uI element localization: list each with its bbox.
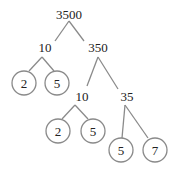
composite-node: 3500 xyxy=(56,7,82,22)
tree-edge xyxy=(55,21,69,41)
node-label: 35 xyxy=(121,89,134,104)
node-label: 10 xyxy=(76,89,89,104)
prime-factor-node: 2 xyxy=(46,119,70,143)
node-label: 5 xyxy=(90,124,97,139)
prime-factor-node: 2 xyxy=(12,71,36,95)
tree-edge xyxy=(125,105,148,138)
composite-node: 35 xyxy=(121,89,134,104)
tree-edge xyxy=(62,105,75,119)
tree-edge xyxy=(75,105,88,119)
tree-edge xyxy=(69,21,84,41)
node-label: 7 xyxy=(152,143,159,158)
node-label: 2 xyxy=(55,124,62,139)
node-label: 350 xyxy=(88,40,108,55)
tree-edge xyxy=(122,105,125,138)
node-label: 5 xyxy=(118,143,125,158)
prime-factor-node: 5 xyxy=(81,119,105,143)
factor-tree-diagram: 3500103502510352557 xyxy=(0,0,172,173)
composite-node: 350 xyxy=(88,40,108,55)
tree-edge xyxy=(98,57,118,89)
prime-factor-node: 5 xyxy=(45,71,69,95)
composite-node: 10 xyxy=(39,40,52,55)
prime-factor-node: 7 xyxy=(143,138,167,162)
prime-factor-node: 5 xyxy=(109,138,133,162)
tree-edge xyxy=(29,57,42,71)
tree-edge xyxy=(87,57,98,86)
tree-nodes: 3500103502510352557 xyxy=(12,7,167,162)
node-label: 10 xyxy=(39,40,52,55)
node-label: 5 xyxy=(54,76,61,91)
tree-edge xyxy=(42,57,54,71)
node-label: 3500 xyxy=(56,7,82,22)
node-label: 2 xyxy=(21,76,28,91)
composite-node: 10 xyxy=(76,89,89,104)
